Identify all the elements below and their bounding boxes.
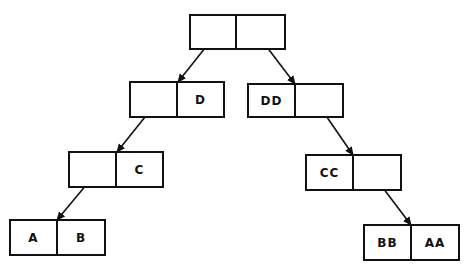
- nodes: DDDCCCABBBAA: [10, 15, 459, 260]
- cell-left-value: CC: [320, 166, 340, 180]
- cell-left-value: DD: [261, 94, 283, 108]
- cell-left-value: A: [28, 231, 38, 245]
- cell-right-value: AA: [425, 236, 446, 250]
- cons-cell-root: [190, 15, 285, 49]
- cons-cell-n_ab: AB: [10, 220, 105, 255]
- cell-right-value: C: [135, 163, 145, 177]
- cell-box: [190, 15, 285, 49]
- cons-cell-n_bbaa: BBAA: [364, 225, 459, 260]
- edges: [57, 38, 411, 225]
- cons-cell-n_cc: CC: [306, 155, 401, 190]
- tree-diagram: DDDCCCABBBAA: [0, 0, 466, 275]
- cell-left-value: BB: [377, 236, 397, 250]
- tree-svg: DDDCCCABBBAA: [0, 0, 466, 275]
- cons-cell-n_left: D: [130, 82, 224, 117]
- cell-right-value: D: [195, 93, 206, 107]
- cell-right-value: B: [76, 231, 86, 245]
- cons-cell-n_right: DD: [248, 84, 343, 117]
- cons-cell-n_c: C: [69, 152, 163, 187]
